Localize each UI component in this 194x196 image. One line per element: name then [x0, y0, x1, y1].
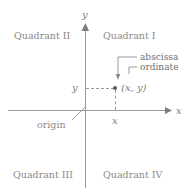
origin-leader-line — [72, 107, 85, 120]
coordinate-plane-diagram: Quadrant II Quadrant I Quadrant III Quad… — [0, 0, 194, 196]
point-y-value-label: y — [72, 83, 78, 93]
quadrant-1-label: Quadrant I — [103, 31, 156, 41]
point-projection-to-y-axis — [86, 88, 114, 89]
plotted-point-marker — [113, 86, 117, 90]
ordinate-callout-label: ordinate — [140, 63, 178, 72]
abscissa-callout-label: abscissa — [140, 53, 178, 62]
origin-label: origin — [37, 120, 66, 130]
y-axis-arrowhead — [82, 23, 90, 31]
point-coordinate-label: (x, y) — [121, 83, 146, 93]
quadrant-2-label: Quadrant II — [14, 31, 70, 41]
y-axis-label: y — [82, 10, 88, 20]
ordinate-leader-line — [129, 67, 137, 74]
quadrant-4-label: Quadrant IV — [103, 170, 162, 180]
abscissa-leader-line — [118, 57, 137, 76]
x-axis-arrowhead — [165, 107, 172, 114]
point-x-value-label: x — [112, 116, 118, 126]
x-axis-label: x — [176, 106, 182, 116]
abscissa-leader-arrowhead — [116, 74, 121, 80]
quadrant-3-label: Quadrant III — [13, 170, 73, 180]
point-projection-to-x-axis — [115, 90, 116, 110]
